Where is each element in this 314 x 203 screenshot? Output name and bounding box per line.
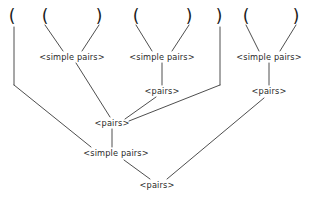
node-simple-pairs-right: <simple pairs> xyxy=(236,53,302,61)
terminal-rparen-5: ) xyxy=(186,8,193,25)
edge-lparen2-to-simplepairs1 xyxy=(45,25,63,51)
node-simple-pairs-left: <simple pairs> xyxy=(39,53,105,61)
parse-tree-diagram: ( ( ) ( ) ) ( ) <simple pairs> <simple p… xyxy=(0,0,314,203)
terminal-rparen-8: ) xyxy=(293,8,300,25)
node-pairs-root: <pairs> xyxy=(140,181,175,189)
edge-simplepairs-bottom-to-pairs-root xyxy=(124,160,150,179)
terminal-lparen-4: ( xyxy=(133,8,140,25)
edge-pairs-right-to-pairs-root xyxy=(167,98,264,179)
edge-rparen3-to-simplepairs1 xyxy=(82,25,99,51)
terminal-lparen-7: ( xyxy=(243,8,250,25)
edge-simplepairs1-to-pairs-center xyxy=(76,63,110,117)
node-pairs-middle: <pairs> xyxy=(145,87,180,95)
edge-rparen8-to-simplepairs3 xyxy=(280,25,296,51)
node-pairs-right: <pairs> xyxy=(252,87,287,95)
edge-rparen5-to-simplepairs2 xyxy=(172,25,189,51)
terminal-rparen-6: ) xyxy=(216,8,223,25)
terminal-lparen-1: ( xyxy=(9,8,16,25)
terminal-rparen-3: ) xyxy=(96,8,103,25)
node-simple-pairs-bottom: <simple pairs> xyxy=(83,149,149,157)
edge-pairs-midright-to-pairs-center xyxy=(125,97,156,119)
edge-lparen7-to-simplepairs3 xyxy=(246,25,259,51)
edge-lparen1-to-simplepairs-bottom xyxy=(14,85,91,147)
node-simple-pairs-middle: <simple pairs> xyxy=(129,53,195,61)
terminal-lparen-2: ( xyxy=(42,8,49,25)
edge-group xyxy=(14,25,296,179)
edge-lparen4-to-simplepairs2 xyxy=(136,25,152,51)
node-pairs-center: <pairs> xyxy=(95,119,130,127)
tree-edges-layer xyxy=(0,0,314,203)
